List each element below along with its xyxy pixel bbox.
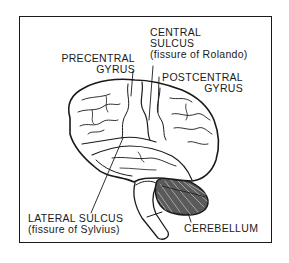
- cerebrum: [69, 79, 219, 182]
- precentral-gyrus-line2: GYRUS: [57, 64, 135, 75]
- label-precentral-gyrus: PRECENTRAL GYRUS: [57, 53, 135, 75]
- label-cerebellum: CEREBELLUM: [184, 223, 258, 234]
- lateral-sulcus-line2: (fissure of Sylvius): [28, 224, 123, 235]
- figure-caption-cutoff: [0, 256, 289, 263]
- label-postcentral-gyrus: POSTCENTRAL GYRUS: [157, 72, 243, 94]
- cerebellum: [155, 177, 208, 215]
- cerebellum-line1: CEREBELLUM: [184, 223, 258, 234]
- label-central-sulcus: CENTRAL SULCUS (fissure of Rolando): [150, 27, 248, 60]
- postcentral-gyrus-line2: GYRUS: [157, 83, 243, 94]
- label-lateral-sulcus: LATERAL SULCUS (fissure of Sylvius): [28, 213, 123, 235]
- central-sulcus-line3: (fissure of Rolando): [150, 49, 248, 60]
